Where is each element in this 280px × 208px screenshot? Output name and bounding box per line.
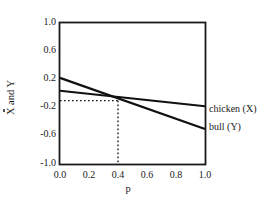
y-tick-label-0: 1.0 <box>24 17 56 27</box>
x-tick-label-1: 0.2 <box>74 170 104 180</box>
y-tick-label-5: -1.0 <box>24 158 56 168</box>
y-tick-label-2: 0.2 <box>24 73 56 83</box>
x-tick-label-3: 0.6 <box>132 170 162 180</box>
series-label-bull: bull (Y) <box>209 122 241 132</box>
x-axis-title: p <box>113 183 143 194</box>
x-tick-label-2: 0.4 <box>103 170 133 180</box>
scan-artifact-speck <box>3 109 5 112</box>
series-label-chicken: chicken (X) <box>209 104 256 114</box>
x-tick-label-0: 0.0 <box>45 170 75 180</box>
x-tick-label-4: 0.8 <box>161 170 191 180</box>
y-axis-title: X and Y <box>5 68 16 128</box>
y-tick-label-3: -0.2 <box>24 101 56 111</box>
x-tick-label-5: 1.0 <box>190 170 220 180</box>
y-tick-label-4: -0.6 <box>24 129 56 139</box>
y-tick-label-1: 0.6 <box>24 45 56 55</box>
